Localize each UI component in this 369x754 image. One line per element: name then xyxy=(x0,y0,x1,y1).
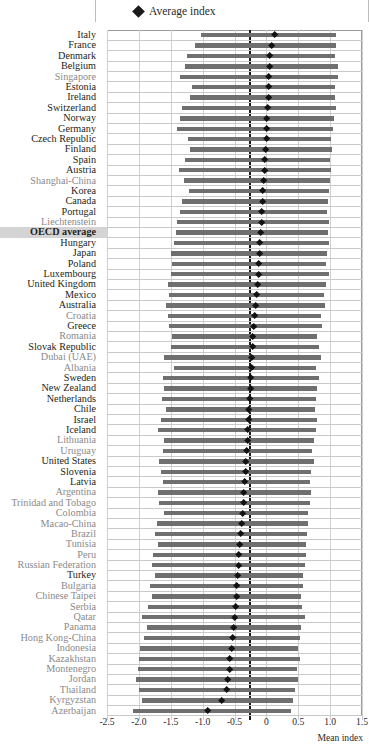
range-bar xyxy=(144,636,300,640)
chart-row: Canada xyxy=(0,196,369,206)
chart-row: Jordan xyxy=(0,674,369,684)
chart-row: France xyxy=(0,40,369,50)
row-label-colombia: Colombia xyxy=(56,508,96,518)
row-label-chile: Chile xyxy=(74,404,96,414)
range-bar xyxy=(148,605,302,609)
range-bar xyxy=(152,594,302,598)
range-bar xyxy=(133,709,291,713)
x-axis-title: Mean index xyxy=(317,732,363,743)
chart-row: Albania xyxy=(0,363,369,373)
chart-row: Italy xyxy=(0,30,369,40)
range-bar xyxy=(138,667,297,671)
chart-row: Austria xyxy=(0,165,369,175)
range-bar xyxy=(188,137,331,141)
range-bar xyxy=(169,324,323,328)
range-bar xyxy=(180,116,334,120)
chart-row: Korea xyxy=(0,186,369,196)
range-bar xyxy=(163,449,312,453)
x-tick-label: -1.5 xyxy=(163,716,178,727)
chart-legend: Average index xyxy=(0,0,369,26)
range-bar xyxy=(168,314,321,318)
range-bar xyxy=(174,241,329,245)
range-bar xyxy=(172,262,326,266)
chart-row: Czech Republic xyxy=(0,134,369,144)
x-tick-label: -1.0 xyxy=(195,716,210,727)
range-bar xyxy=(166,407,315,411)
range-bar xyxy=(185,64,338,68)
range-bar xyxy=(185,158,330,162)
chart-row: Qatar xyxy=(0,612,369,622)
range-bar xyxy=(158,428,316,432)
range-bar xyxy=(136,677,299,681)
range-bar xyxy=(150,584,303,588)
range-bar xyxy=(171,345,319,349)
range-bar xyxy=(195,43,337,47)
chart-row: Belgium xyxy=(0,61,369,71)
chart-row: Slovenia xyxy=(0,467,369,477)
range-bar xyxy=(139,688,295,692)
range-bar xyxy=(163,480,310,484)
chart-row: OECD average xyxy=(0,227,369,237)
chart-row: Chinese Taipei xyxy=(0,591,369,601)
chart-row: Australia xyxy=(0,300,369,310)
range-bar xyxy=(153,553,306,557)
x-tick-label: -2.5 xyxy=(99,716,114,727)
chart-row: Hong Kong-China xyxy=(0,633,369,643)
range-bar xyxy=(166,303,325,307)
chart-row: Dubai (UAE) xyxy=(0,352,369,362)
range-bar xyxy=(161,470,311,474)
diamond-marker-icon xyxy=(132,5,145,18)
range-bar xyxy=(190,95,335,99)
chart-row: Montenegro xyxy=(0,664,369,674)
chart-row: Iceland xyxy=(0,425,369,435)
chart-row: Brazil xyxy=(0,529,369,539)
range-bar xyxy=(147,625,302,629)
range-bar xyxy=(180,210,327,214)
range-bar xyxy=(179,168,331,172)
chart-row: Singapore xyxy=(0,72,369,82)
range-bar xyxy=(177,127,333,131)
range-bar xyxy=(159,459,313,463)
range-bar xyxy=(169,293,324,297)
range-bar xyxy=(139,657,300,661)
chart-row: Azerbaijan xyxy=(0,706,369,716)
chart-row: Shanghai-China xyxy=(0,176,369,186)
average-index-marker xyxy=(250,312,258,320)
range-bar xyxy=(155,573,304,577)
chart-rows: ItalyFranceDenmarkBelgiumSingaporeEstoni… xyxy=(0,30,369,716)
range-bar xyxy=(182,199,328,203)
plot-area: ItalyFranceDenmarkBelgiumSingaporeEstoni… xyxy=(0,30,369,720)
range-bar xyxy=(192,85,334,89)
row-label-norway: Norway xyxy=(63,113,96,123)
range-bar xyxy=(162,397,316,401)
chart-row: Norway xyxy=(0,113,369,123)
x-tick-label: 1.0 xyxy=(324,716,336,727)
range-bar xyxy=(171,272,330,276)
chart-row: Mexico xyxy=(0,290,369,300)
chart-row: Turkey xyxy=(0,570,369,580)
chart-container: Average index ItalyFranceDenmarkBelgiumS… xyxy=(0,0,369,754)
chart-row: Serbia xyxy=(0,602,369,612)
chart-row: Russian Federation xyxy=(0,560,369,570)
range-bar xyxy=(182,106,336,110)
chart-row: Hungary xyxy=(0,238,369,248)
x-tick-label: -0.5 xyxy=(227,716,242,727)
x-tick-label: 1.5 xyxy=(356,716,368,727)
range-bar xyxy=(164,355,320,359)
x-tick-label: -2.0 xyxy=(131,716,146,727)
range-bar xyxy=(164,438,313,442)
range-bar xyxy=(163,376,319,380)
average-index-marker xyxy=(236,530,244,538)
chart-row: United Kingdom xyxy=(0,279,369,289)
chart-row: Finland xyxy=(0,144,369,154)
average-index-marker xyxy=(263,135,271,143)
range-bar xyxy=(168,282,326,286)
chart-row: Macao-China xyxy=(0,519,369,529)
legend-label: Average index xyxy=(149,5,216,17)
range-bar xyxy=(142,615,305,619)
range-bar xyxy=(171,251,327,255)
x-tick-label: 0.5 xyxy=(292,716,304,727)
average-index-marker xyxy=(249,343,257,351)
row-label-united-states: United States xyxy=(41,456,96,466)
row-label-azerbaijan: Azerbaijan xyxy=(51,706,96,716)
